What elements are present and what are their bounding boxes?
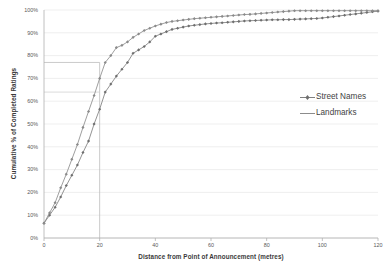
legend-label-street-names: Street Names	[316, 92, 366, 101]
y-axis-tick-label: 80%	[18, 52, 38, 58]
x-axis-title: Distance from Point of Announcement (met…	[44, 253, 378, 260]
y-axis-tick-label: 40%	[18, 144, 38, 150]
x-axis-tick-label: 60	[199, 242, 223, 248]
x-axis-tick-label: 120	[366, 242, 383, 248]
x-axis-tick-label: 40	[143, 242, 167, 248]
x-axis-tick-label: 100	[310, 242, 334, 248]
cumulative-distribution-chart: 0%10%20%30%40%50%60%70%80%90%100% 020406…	[0, 0, 383, 267]
y-axis-tick-label: 30%	[18, 166, 38, 172]
y-axis-tick-label: 60%	[18, 98, 38, 104]
y-axis-tick-label: 90%	[18, 30, 38, 36]
x-axis-tick-label: 0	[32, 242, 56, 248]
y-axis-tick-label: 10%	[18, 212, 38, 218]
y-axis-tick-label: 70%	[18, 75, 38, 81]
y-axis-tick-label: 20%	[18, 189, 38, 195]
y-axis-tick-label: 50%	[18, 121, 38, 127]
legend-marker-street-names-icon	[300, 93, 315, 102]
y-axis-tick-label: 0%	[18, 235, 38, 241]
legend-label-landmarks: Landmarks	[316, 108, 357, 117]
y-axis-title: Cumulative % of Completed Ratings	[10, 49, 17, 199]
x-axis-tick-label: 20	[88, 242, 112, 248]
y-axis-tick-label: 100%	[18, 7, 38, 13]
chart-plot-area	[0, 0, 383, 267]
legend-marker-landmarks-icon	[300, 109, 315, 118]
x-axis-tick-label: 80	[255, 242, 279, 248]
